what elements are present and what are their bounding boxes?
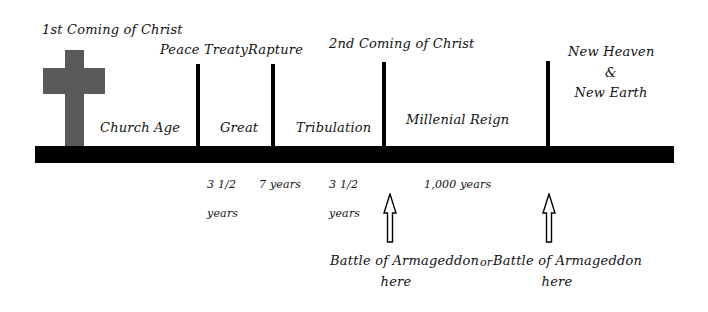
duration-first-half-unit: years [207, 207, 238, 220]
label-great: Great [220, 120, 258, 135]
cross-horizontal-beam [43, 68, 105, 94]
label-second-coming: 2nd Coming of Christ [329, 36, 475, 51]
cross-vertical-beam [65, 50, 84, 149]
armageddon-option-2: Battle of Armageddon here [493, 253, 637, 289]
duration-first-half-num: 3 1/2 [207, 178, 236, 191]
armageddon-or: or [480, 256, 492, 269]
armageddon-option-2-title: Battle of Armageddon [493, 253, 637, 268]
marker-peace-treaty [196, 64, 200, 147]
label-new-heaven-earth: New Heaven & New Earth [568, 44, 654, 100]
label-first-coming: 1st Coming of Christ [42, 22, 183, 37]
duration-millennium: 1,000 years [424, 178, 491, 191]
marker-millennium-end [546, 61, 550, 147]
label-new-heaven: New Heaven [568, 44, 654, 59]
armageddon-option-1: Battle of Armageddon here [330, 253, 474, 289]
marker-rapture [271, 64, 275, 147]
up-arrow-icon [542, 193, 556, 243]
label-church-age: Church Age [100, 120, 180, 135]
label-peace-treaty: Peace Treaty [160, 42, 248, 57]
marker-second-coming [382, 62, 386, 147]
duration-total: 7 years [259, 178, 301, 191]
up-arrow-icon [383, 193, 397, 243]
duration-second-half-num: 3 1/2 [329, 178, 358, 191]
label-ampersand: & [568, 65, 654, 80]
armageddon-option-2-here: here [493, 274, 621, 289]
label-rapture: Rapture [248, 42, 303, 57]
armageddon-option-1-title: Battle of Armageddon [330, 253, 474, 268]
label-millenial-reign: Millenial Reign [406, 112, 509, 127]
label-new-earth: New Earth [568, 85, 654, 100]
armageddon-option-1-here: here [330, 274, 462, 289]
label-tribulation: Tribulation [296, 120, 371, 135]
duration-second-half-unit: years [329, 207, 360, 220]
timeline-bar [35, 146, 674, 163]
